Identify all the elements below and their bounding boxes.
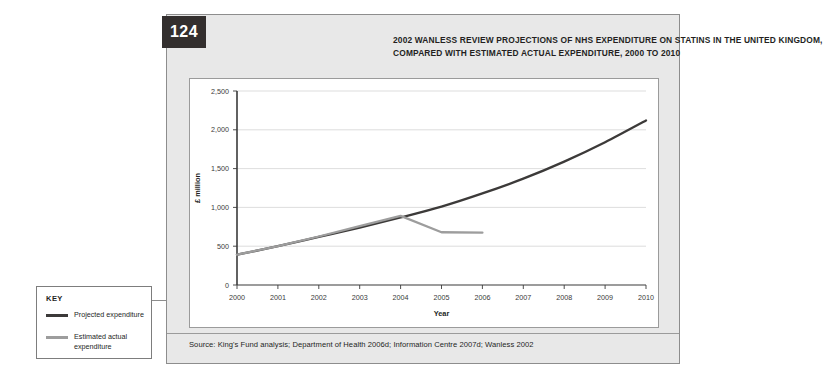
x-axis-title: Year [434,309,450,318]
key-label-estimated-actual: Estimated actual expenditure [74,332,148,351]
key-heading: KEY [46,294,63,303]
figure-number-badge: 124 [162,16,206,48]
figure-panel: 2002 Wanless review projections of NHS e… [166,14,680,364]
gridlines-group [237,91,646,246]
key-entry-estimated-actual: Estimated actual expenditure [46,332,148,351]
series-line-estimated-actual [237,216,482,255]
x-axis-tick-label: 2006 [474,293,490,302]
x-axis-tick-label: 2010 [638,293,654,302]
x-axis-ticks-group: 2000200120022003200420052006200720082009… [229,285,654,302]
source-text: Source: King's Fund analysis; Department… [189,340,534,349]
series-line-projected [237,120,646,254]
key-connector-line [152,300,167,301]
y-axis-tick-label: 2,000 [211,125,229,134]
chart-canvas: 05001,0001,5002,0002,500 200020012002200… [190,79,658,327]
y-axis-tick-label: 0 [225,281,229,290]
x-axis-tick-label: 2008 [556,293,572,302]
x-axis-tick-label: 2004 [393,293,409,302]
y-axis-tick-label: 1,000 [211,203,229,212]
key-label-projected: Projected expenditure [74,310,148,320]
line-chart-svg: 05001,0001,5002,0002,500 200020012002200… [190,79,658,327]
x-axis-tick-label: 2007 [515,293,531,302]
key-entry-projected: Projected expenditure [46,310,148,320]
x-axis-tick-label: 2001 [270,293,286,302]
x-axis-tick-label: 2005 [434,293,450,302]
y-axis-title: £ million [193,173,202,203]
key-swatch-estimated-actual-icon [46,336,68,339]
key-legend-box: KEY Projected expenditure Estimated actu… [36,286,152,359]
key-swatch-projected-icon [46,314,68,317]
y-axis-ticks-group: 05001,0001,5002,0002,500 [211,87,237,290]
figure-title: 2002 Wanless review projections of NHS e… [393,34,827,60]
x-axis-tick-label: 2009 [597,293,613,302]
y-axis-tick-label: 500 [217,242,229,251]
source-divider [167,333,679,334]
chart-plot-container: 05001,0001,5002,0002,500 200020012002200… [189,78,659,328]
x-axis-tick-label: 2002 [311,293,327,302]
y-axis-tick-label: 2,500 [211,87,229,96]
x-axis-tick-label: 2000 [229,293,245,302]
y-axis-tick-label: 1,500 [211,164,229,173]
x-axis-tick-label: 2003 [352,293,368,302]
